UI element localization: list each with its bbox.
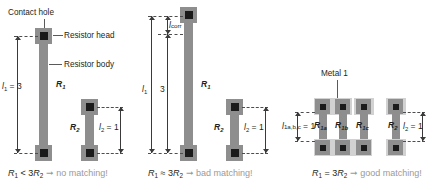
r1c-name-label: R1c <box>356 120 369 130</box>
resistor-head-label: Resistor head <box>64 31 115 40</box>
m-lcorr-dimension-arrow <box>167 16 168 34</box>
m-ext-bottom <box>148 153 183 154</box>
m-r1-name-label: R1 <box>201 79 210 89</box>
m-r1-body <box>184 22 193 146</box>
m-r1-head-contact-hole <box>185 11 193 19</box>
r2-bottom-contact-hole <box>86 149 94 157</box>
m-r2-head-pad <box>226 99 243 115</box>
m-nominal3-dimension-arrow <box>167 34 168 153</box>
resistor-head-leader <box>53 35 63 36</box>
contact-hole-label: Contact hole <box>8 8 54 17</box>
r1-name-label: R1 <box>56 79 65 89</box>
m-lcorr-dimension-label: lcorr <box>169 20 182 30</box>
r1b-bottom-contact-hole <box>340 145 346 151</box>
m-l1-dimension-arrow <box>151 16 152 153</box>
panel-right: Metal 1 <box>290 0 443 194</box>
m-nominal3-dimension-label: 3 <box>160 84 165 94</box>
m-l2-dimension-arrow <box>265 107 266 153</box>
m-r1-bottom-contact-hole <box>185 149 193 157</box>
r1a-bottom-pad <box>315 140 330 155</box>
r-l2-dimension-label: l2 = 1 <box>403 121 423 131</box>
figure-canvas: Contact hole Resistor head Resistor body… <box>0 0 443 194</box>
r2-head-pad <box>81 99 98 115</box>
left-caption: R1 < 3R2 ➞ no matching! <box>8 168 108 178</box>
l1-dimension-label: l1 = 3 <box>2 81 22 91</box>
resistor-body-leader <box>49 64 62 65</box>
r1-head-contact-hole <box>40 32 48 40</box>
r1c-bottom-pad <box>356 140 371 155</box>
l2-dimension-arrow <box>120 107 121 153</box>
r2-head-contact-hole <box>86 103 94 111</box>
r1a-bottom-contact-hole <box>320 145 326 151</box>
r1a-name-label: R1a <box>314 120 327 130</box>
r1c-bottom-contact-hole <box>361 145 367 151</box>
r1b-top-pad <box>335 99 350 114</box>
r2-top-contact-hole <box>393 104 399 110</box>
r2-name-label-right: R2 <box>388 120 397 130</box>
m-l2-dimension-label: l2 = 1 <box>244 122 264 132</box>
m-l2-ext-bottom <box>242 153 268 154</box>
m-r2-bottom-contact-hole <box>231 149 239 157</box>
panel-middle: R1 l1 3 lcorr R2 l2 = 1 <box>140 0 290 194</box>
r1c-top-pad <box>356 99 371 114</box>
r2-body <box>85 114 94 146</box>
r2-bottom-contact-hole <box>393 145 399 151</box>
r1a-top-contact-hole <box>320 104 326 110</box>
m-l1-dimension-label: l1 <box>142 84 147 94</box>
m-ext-corr <box>158 34 183 35</box>
r2-bottom-pad <box>81 145 98 161</box>
r-l1abc-dimension-label: l1a,b,c = 1 <box>282 121 315 131</box>
l2-ext-bottom <box>97 153 123 154</box>
r2-name-label: R2 <box>70 122 79 132</box>
r-l2-ext-bottom <box>403 141 425 142</box>
l2-dimension-label: l2 = 1 <box>99 122 119 132</box>
right-caption: R1 = 3R2 ➞ good matching! <box>312 168 422 178</box>
middle-caption: R1 ≈ 3R2 ➞ bad matching! <box>148 168 253 178</box>
metal1-label: Metal 1 <box>321 69 348 78</box>
r1b-top-contact-hole <box>340 104 346 110</box>
resistor-body-label: Resistor body <box>64 60 114 69</box>
m-r2-body <box>230 114 239 146</box>
r1b-bottom-pad <box>335 140 350 155</box>
r1a-top-pad <box>315 99 330 114</box>
m-r2-bottom-pad <box>226 145 243 161</box>
m-r2-name-label: R2 <box>214 122 223 132</box>
l1-dimension-arrow <box>17 36 18 153</box>
panel-left: Contact hole Resistor head Resistor body… <box>0 0 140 194</box>
metal1-leader <box>337 80 338 99</box>
r-l1abc-ext-bottom <box>295 141 315 142</box>
r1-bottom-contact-hole <box>40 149 48 157</box>
r1c-top-contact-hole <box>361 104 367 110</box>
l1-ext-bottom <box>14 153 38 154</box>
m-r1-head-pad <box>180 7 197 23</box>
r1-body <box>39 43 48 146</box>
r2-bottom-pad-right <box>388 140 403 155</box>
m-r2-head-contact-hole <box>231 103 239 111</box>
r2-top-pad <box>388 99 403 114</box>
r1b-name-label: R1b <box>335 120 348 130</box>
